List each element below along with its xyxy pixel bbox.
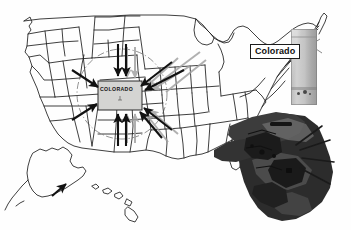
- arrow-from-northeast-a: [141, 62, 172, 86]
- dark-vehicle-object: [214, 112, 334, 221]
- arrow-alaska-pointer: [52, 184, 66, 196]
- callout-label-colorado: Colorado: [250, 44, 300, 59]
- grey-object-fitting: [309, 93, 311, 95]
- grey-object-fitting: [297, 92, 300, 95]
- grey-object-fitting: [303, 90, 307, 94]
- colorado-state-label: COLORADO: [100, 86, 133, 92]
- arrow-from-far-southeast: [140, 112, 162, 138]
- grey-rectangular-object: [291, 29, 317, 105]
- grey-object-band: [291, 36, 317, 38]
- arrow-from-northeast-b: [145, 70, 184, 90]
- figure-canvas: Colorado COLORADO: [0, 0, 351, 230]
